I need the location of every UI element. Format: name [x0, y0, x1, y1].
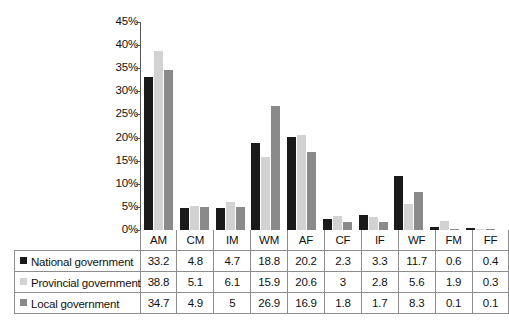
table-header-row: AMCMIMWMAFCFIFWFFMFF — [15, 230, 509, 251]
bar — [440, 221, 449, 230]
bars-layer — [141, 22, 498, 230]
bar — [414, 192, 423, 230]
y-tick-mark — [136, 68, 140, 69]
legend-swatch-icon — [20, 299, 27, 306]
table-cell: 0.1 — [472, 293, 509, 314]
column-header-am: AM — [140, 230, 177, 251]
table-cell: 26.9 — [251, 293, 288, 314]
table-cell: 1.9 — [435, 272, 472, 293]
bar — [271, 106, 280, 230]
legend-label: Provincial government — [31, 276, 141, 288]
y-tick-label: 25% — [116, 109, 138, 121]
y-tick-label: 20% — [116, 132, 138, 144]
legend-swatch-icon — [20, 278, 27, 285]
legend-item-national: National government — [15, 251, 141, 272]
table-cell: 0.3 — [472, 272, 509, 293]
table-cell: 0.1 — [435, 293, 472, 314]
bar — [144, 77, 153, 230]
bar-group-cf — [320, 22, 356, 230]
y-tick-label: 15% — [116, 155, 138, 167]
bar — [180, 208, 189, 230]
bar — [297, 135, 306, 230]
bar — [226, 202, 235, 230]
table-cell: 33.2 — [140, 251, 177, 272]
table-cell: 0.4 — [472, 251, 509, 272]
table-cell: 34.7 — [140, 293, 177, 314]
table-cell: 6.1 — [214, 272, 251, 293]
legend-label: Local government — [31, 297, 119, 309]
bar — [200, 207, 209, 230]
table-cell: 4.9 — [177, 293, 214, 314]
bar — [394, 176, 403, 230]
table-cell: 38.8 — [140, 272, 177, 293]
table-row: National government33.24.84.718.820.22.3… — [15, 251, 509, 272]
data-table-body: AMCMIMWMAFCFIFWFFMFFNational government3… — [15, 230, 509, 314]
bar — [359, 215, 368, 230]
column-header-ff: FF — [472, 230, 509, 251]
bar — [323, 219, 332, 230]
legend-item-local: Local government — [15, 293, 141, 314]
legend-label: National government — [31, 255, 133, 267]
legend-swatch-icon — [20, 257, 27, 264]
y-tick-mark — [136, 45, 140, 46]
table-cell: 15.9 — [251, 272, 288, 293]
table-cell: 3.3 — [361, 251, 398, 272]
bar — [307, 152, 316, 230]
y-tick-label: 10% — [116, 178, 138, 190]
y-tick-mark — [136, 184, 140, 185]
bar — [379, 222, 388, 230]
bar-group-af — [284, 22, 320, 230]
bar-group-im — [212, 22, 248, 230]
table-cell: 3 — [324, 272, 361, 293]
y-tick-label: 45% — [116, 16, 138, 28]
y-tick-label: 40% — [116, 39, 138, 51]
table-cell: 1.8 — [324, 293, 361, 314]
y-tick-mark — [136, 22, 140, 23]
bar-group-wf — [391, 22, 427, 230]
table-cell: 2.3 — [324, 251, 361, 272]
bar — [154, 51, 163, 230]
column-header-wf: WF — [398, 230, 435, 251]
table-cell: 1.7 — [361, 293, 398, 314]
table-cell: 0.6 — [435, 251, 472, 272]
column-header-af: AF — [288, 230, 325, 251]
y-tick-mark — [136, 91, 140, 92]
bar-group-ff — [462, 22, 498, 230]
table-cell: 5.1 — [177, 272, 214, 293]
table-cell: 4.8 — [177, 251, 214, 272]
bar — [190, 206, 199, 230]
column-header-if: IF — [361, 230, 398, 251]
bar-group-wm — [248, 22, 284, 230]
data-table: AMCMIMWMAFCFIFWFFMFFNational government3… — [14, 230, 509, 314]
bar — [287, 137, 296, 230]
table-row: Local government34.74.9526.916.91.81.78.… — [15, 293, 509, 314]
legend-item-provincial: Provincial government — [15, 272, 141, 293]
table-cell: 4.7 — [214, 251, 251, 272]
table-cell: 16.9 — [288, 293, 325, 314]
table-cell: 18.8 — [251, 251, 288, 272]
column-header-fm: FM — [435, 230, 472, 251]
table-row: Provincial government38.85.16.115.920.63… — [15, 272, 509, 293]
y-tick-label: 35% — [116, 62, 138, 74]
bar — [343, 222, 352, 230]
bar — [333, 216, 342, 230]
bar — [369, 217, 378, 230]
table-cell: 5.6 — [398, 272, 435, 293]
table-cell: 8.3 — [398, 293, 435, 314]
bar — [236, 207, 245, 230]
y-tick-mark — [136, 161, 140, 162]
table-corner-cell — [15, 230, 141, 251]
table-cell: 20.2 — [288, 251, 325, 272]
table-cell: 20.6 — [288, 272, 325, 293]
bar — [251, 143, 260, 230]
bar — [404, 204, 413, 230]
bar — [216, 208, 225, 230]
y-tick-mark — [136, 114, 140, 115]
y-tick-mark — [136, 138, 140, 139]
bar-group-if — [355, 22, 391, 230]
bar-group-am — [141, 22, 177, 230]
plot-area: 0%5%10%15%20%25%30%35%40%45% — [0, 0, 508, 232]
column-header-wm: WM — [251, 230, 288, 251]
bar-group-fm — [427, 22, 463, 230]
